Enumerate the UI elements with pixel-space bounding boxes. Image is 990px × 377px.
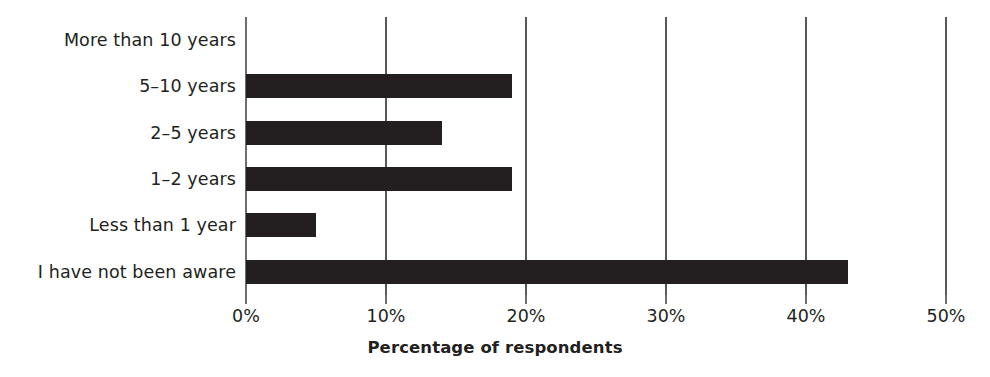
bar-less-than-1-year — [246, 213, 316, 237]
x-axis-tick-mark — [245, 295, 247, 304]
bar-row — [246, 110, 946, 156]
bar-row — [246, 202, 946, 248]
bar-row — [246, 156, 946, 202]
x-axis: 0% 10% 20% 30% 40% 50% — [246, 295, 946, 335]
bar-5-10-years — [246, 74, 512, 98]
bar-row — [246, 249, 946, 295]
bar-row — [246, 63, 946, 109]
x-axis-tick-label: 0% — [232, 306, 260, 327]
y-axis-tick-label: 2–5 years — [0, 123, 236, 143]
y-axis-tick-label: 1–2 years — [0, 169, 236, 189]
x-axis-tick-label: 20% — [507, 306, 546, 327]
y-axis-tick-label: More than 10 years — [0, 30, 236, 50]
y-axis-category-labels: More than 10 years 5–10 years 2–5 years … — [0, 17, 236, 295]
x-axis-tick-label: 40% — [787, 306, 826, 327]
y-axis-tick-label: I have not been aware — [0, 262, 236, 282]
bar-1-2-years — [246, 167, 512, 191]
x-axis-tick-label: 30% — [647, 306, 686, 327]
x-axis-tick-mark — [945, 295, 947, 304]
x-axis-title: Percentage of respondents — [0, 338, 990, 357]
x-axis-tick-label: 50% — [927, 306, 966, 327]
x-axis-tick-mark — [665, 295, 667, 304]
plot-area — [246, 17, 946, 295]
x-axis-tick-mark — [805, 295, 807, 304]
y-axis-tick-label: Less than 1 year — [0, 215, 236, 235]
x-axis-tick-mark — [525, 295, 527, 304]
x-axis-tick-label: 10% — [367, 306, 406, 327]
bar-row — [246, 17, 946, 63]
x-axis-tick-mark — [385, 295, 387, 304]
y-axis-tick-label: 5–10 years — [0, 76, 236, 96]
bars-layer — [246, 17, 946, 295]
bar-chart-figure: More than 10 years 5–10 years 2–5 years … — [0, 0, 990, 377]
bar-2-5-years — [246, 121, 442, 145]
bar-i-have-not-been-aware — [246, 260, 848, 284]
